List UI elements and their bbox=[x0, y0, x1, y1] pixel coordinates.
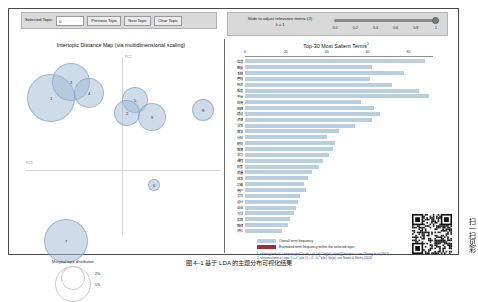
legend-size-label-2pct: 2% bbox=[95, 272, 100, 276]
relevance-slider-track[interactable] bbox=[334, 19, 438, 22]
bar-term-label[interactable]: 课程 bbox=[231, 158, 243, 163]
bar-overall-frequency bbox=[245, 165, 319, 169]
bar-overall-frequency bbox=[245, 65, 372, 69]
bar-term-label[interactable]: 教师 bbox=[231, 223, 243, 228]
bar-chart-row[interactable]: 模型 bbox=[231, 164, 443, 169]
selected-topic-input[interactable]: 0 bbox=[56, 16, 84, 26]
bar-term-label[interactable]: 管理 bbox=[231, 76, 243, 81]
bar-term-label[interactable]: 服务 bbox=[231, 88, 243, 93]
bar-overall-frequency bbox=[245, 106, 374, 110]
bar-chart-row[interactable]: 用户 bbox=[231, 188, 443, 193]
bar-term-label[interactable]: 质量 bbox=[231, 170, 243, 175]
bar-overall-frequency bbox=[245, 118, 372, 122]
salient-terms-title: Top-30 Most Salient Terms1 bbox=[229, 42, 443, 49]
topic-bubble-6[interactable]: 6 bbox=[148, 179, 160, 191]
clear-topic-button[interactable]: Clear Topic bbox=[154, 16, 182, 26]
bar-term-label[interactable]: 分析 bbox=[231, 135, 243, 140]
bar-term-label[interactable]: 企业 bbox=[231, 205, 243, 210]
bar-chart-row[interactable]: 教育 bbox=[231, 147, 443, 152]
bar-overall-frequency bbox=[245, 182, 304, 186]
bar-overall-frequency bbox=[245, 147, 333, 151]
legend-label-overall: Overall term frequency bbox=[279, 239, 313, 243]
topic-bubble-9[interactable]: 9 bbox=[138, 103, 166, 131]
bar-chart-row[interactable]: 企业 bbox=[231, 205, 443, 210]
bar-term-label[interactable]: 设计 bbox=[231, 199, 243, 204]
topic-bubble-2[interactable]: 2 bbox=[114, 100, 140, 126]
bar-chart-row[interactable]: 质量 bbox=[231, 170, 443, 175]
bar-term-label[interactable]: 实现 bbox=[231, 217, 243, 222]
bar-term-label[interactable]: 网络 bbox=[231, 106, 243, 111]
bar-chart-row[interactable]: 资源 bbox=[231, 118, 443, 123]
bar-term-label[interactable]: 体系 bbox=[231, 176, 243, 181]
relevance-slider-handle[interactable] bbox=[432, 17, 439, 24]
bar-overall-frequency bbox=[245, 200, 298, 204]
topic-bubble-label: 3 bbox=[70, 80, 72, 85]
bar-chart-row[interactable]: 数据 bbox=[231, 65, 443, 70]
topic-bubble-label: 9 bbox=[151, 115, 153, 120]
bar-chart-row[interactable]: 教学 bbox=[231, 129, 443, 134]
bar-term-label[interactable]: 学习 bbox=[231, 152, 243, 157]
bar-overall-frequency bbox=[245, 211, 294, 215]
bar-chart-row[interactable]: 信息 bbox=[231, 59, 443, 64]
legend-entry-estimated: Estimated term frequency within the sele… bbox=[257, 245, 355, 249]
bar-chart-row[interactable]: 分析 bbox=[231, 135, 443, 140]
bar-term-label[interactable]: 信息 bbox=[231, 59, 243, 64]
bar-chart-row[interactable]: 系统 bbox=[231, 71, 443, 76]
bar-term-label[interactable]: 教育 bbox=[231, 147, 243, 152]
bar-overall-frequency bbox=[245, 59, 425, 63]
bar-term-label[interactable]: 技术 bbox=[231, 82, 243, 87]
bar-term-label[interactable]: 功能 bbox=[231, 182, 243, 187]
bar-chart-row[interactable]: 应用 bbox=[231, 100, 443, 105]
topic-bubble-4[interactable]: 4 bbox=[74, 78, 104, 108]
bar-term-label[interactable]: 工作 bbox=[231, 193, 243, 198]
bar-term-label[interactable]: 资源 bbox=[231, 117, 243, 122]
panel-divider bbox=[224, 39, 225, 253]
bar-chart-row[interactable]: 网络 bbox=[231, 106, 443, 111]
slider-tick-4: 0.8 bbox=[413, 26, 418, 30]
bar-overall-frequency bbox=[245, 170, 312, 174]
slider-tick-3: 0.6 bbox=[393, 26, 398, 30]
bar-chart-row[interactable]: 课程 bbox=[231, 158, 443, 163]
relevance-slider[interactable]: 0.00.20.40.60.81 bbox=[332, 17, 442, 33]
bar-chart-row[interactable]: 服务 bbox=[231, 88, 443, 93]
bar-term-label[interactable]: 模型 bbox=[231, 164, 243, 169]
bar-chart-row[interactable]: 建设 bbox=[231, 112, 443, 117]
salient-terms-bar-chart[interactable]: 020406080 信息数据系统管理技术服务平台应用网络建设资源学生教学分析研究… bbox=[231, 50, 443, 235]
bar-term-label[interactable]: 建设 bbox=[231, 111, 243, 116]
bar-chart-row[interactable]: 管理 bbox=[231, 77, 443, 82]
map-axis-label-pc2: PC2 bbox=[125, 55, 132, 59]
bar-chart-row[interactable]: 学习 bbox=[231, 153, 443, 158]
next-topic-button[interactable]: Next Topic bbox=[124, 16, 151, 26]
bar-chart-row[interactable]: 平台 bbox=[231, 94, 443, 99]
bar-chart-row[interactable]: 体系 bbox=[231, 176, 443, 181]
bar-chart-row[interactable]: 功能 bbox=[231, 182, 443, 187]
bar-x-tick-1: 20 bbox=[284, 50, 288, 54]
bar-term-label[interactable]: 系统 bbox=[231, 71, 243, 76]
bar-term-label[interactable]: 用户 bbox=[231, 188, 243, 193]
bar-chart-row[interactable]: 技术 bbox=[231, 82, 443, 87]
topic-bubble-label: 6 bbox=[153, 183, 155, 188]
bar-chart-row[interactable]: 工作 bbox=[231, 194, 443, 199]
bar-term-label[interactable]: 学生 bbox=[231, 123, 243, 128]
relevance-slider-label-line2: λ = 1 bbox=[234, 22, 326, 28]
bar-term-label[interactable]: 评价 bbox=[231, 228, 243, 233]
bar-overall-frequency bbox=[245, 194, 300, 198]
bar-overall-frequency bbox=[245, 229, 282, 233]
bar-chart-row[interactable]: 设计 bbox=[231, 199, 443, 204]
map-vertical-axis bbox=[122, 57, 123, 235]
bar-term-label[interactable]: 平台 bbox=[231, 94, 243, 99]
relevance-slider-label: Slide to adjust relevance metric:(2) λ =… bbox=[234, 16, 326, 27]
bar-term-label[interactable]: 应用 bbox=[231, 100, 243, 105]
previous-topic-button[interactable]: Previous Topic bbox=[87, 16, 121, 26]
bar-x-tick-0: 0 bbox=[244, 50, 246, 54]
bar-term-label[interactable]: 教学 bbox=[231, 129, 243, 134]
bar-chart-row[interactable]: 研究 bbox=[231, 141, 443, 146]
bar-term-label[interactable]: 数据 bbox=[231, 65, 243, 70]
intertopic-distance-map[interactable]: PC2 PC1 134529867 Marginal topic distrib… bbox=[21, 51, 223, 251]
bar-term-label[interactable]: 方法 bbox=[231, 211, 243, 216]
bar-x-tick-2: 40 bbox=[325, 50, 329, 54]
bar-chart-row[interactable]: 学生 bbox=[231, 123, 443, 128]
topic-bubble-8[interactable]: 8 bbox=[192, 99, 214, 121]
intertopic-map-title: Intertopic Distance Map (via multidimens… bbox=[21, 42, 221, 48]
bar-term-label[interactable]: 研究 bbox=[231, 141, 243, 146]
